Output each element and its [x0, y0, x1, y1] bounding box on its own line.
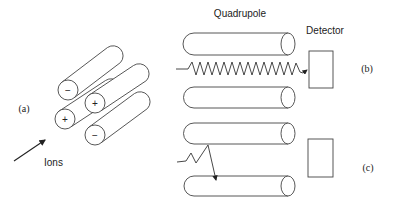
sign-positive: +	[92, 98, 98, 109]
ions-label: Ions	[44, 157, 63, 168]
unstable-ion-trajectory	[177, 145, 216, 180]
detector-label: Detector	[306, 25, 344, 36]
quadrupole-diagram: − + + − (a) Ions Quadrupole Detector	[0, 0, 393, 206]
rod-c-top	[184, 123, 296, 144]
panel-b-label: (b)	[361, 63, 373, 75]
sign-positive: +	[62, 114, 68, 125]
detector-box-b	[309, 51, 333, 88]
sign-negative: −	[65, 85, 71, 96]
quadrupole-label: Quadrupole	[214, 8, 267, 19]
rod-b-top	[183, 33, 295, 55]
detector-box-c	[308, 139, 333, 177]
panel-c	[184, 123, 334, 196]
sign-negative: −	[92, 130, 98, 141]
rod-c-bottom	[184, 176, 295, 196]
stable-ion-trajectory	[176, 62, 307, 75]
panel-c-label: (c)	[362, 162, 373, 174]
rod-b-bottom	[184, 87, 296, 108]
panel-a-label: (a)	[18, 103, 29, 115]
ions-arrow-icon	[14, 140, 45, 161]
